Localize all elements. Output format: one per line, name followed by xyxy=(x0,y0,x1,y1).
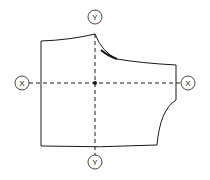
y-bottom-label: Y xyxy=(92,158,98,167)
x-right-label: X xyxy=(185,79,191,88)
x-left-marker: X xyxy=(15,76,29,90)
pattern-outline xyxy=(41,34,176,147)
x-right-marker: X xyxy=(181,76,195,90)
x-left-label: X xyxy=(19,79,25,88)
pattern-diagram: Y Y X X xyxy=(0,0,210,180)
origin-dot xyxy=(93,81,97,85)
y-top-label: Y xyxy=(92,13,98,22)
y-top-marker: Y xyxy=(88,10,102,24)
y-bottom-marker: Y xyxy=(88,155,102,169)
neckline-highlight xyxy=(101,50,117,59)
